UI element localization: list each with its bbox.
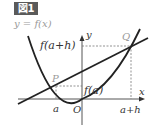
point-q-label: Q xyxy=(122,31,130,42)
label-f-a-plus-h: f(a+h) xyxy=(39,39,76,52)
x-axis-label: x xyxy=(139,86,145,97)
origin-label: O xyxy=(73,104,81,115)
x-axis-arrow-icon xyxy=(139,97,145,102)
point-p-label: P xyxy=(51,73,59,84)
label-f-a: f(a) xyxy=(83,84,103,97)
y-axis-label: y xyxy=(85,29,92,40)
label-a-plus-h: a+h xyxy=(120,104,141,115)
y-axis-arrow-icon xyxy=(80,35,85,41)
curve-label: y = f(x) xyxy=(13,18,52,29)
label-a: a xyxy=(53,103,59,114)
secant-line xyxy=(18,38,148,104)
function-graph: y = f(x) f(a+h) y Q P f(a) a O x a+h xyxy=(0,0,154,133)
